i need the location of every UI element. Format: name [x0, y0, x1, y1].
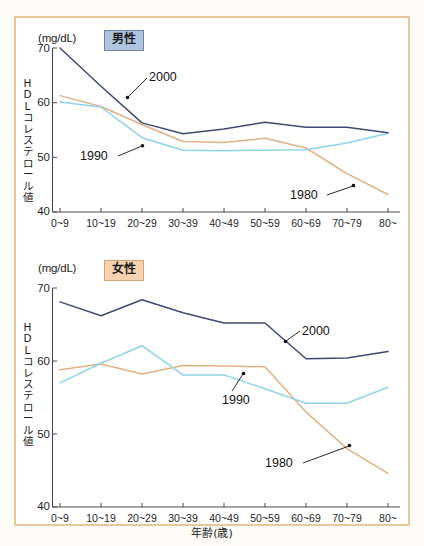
x-tick-male-4: 40~49	[201, 218, 247, 229]
series-label-male-2000: 2000	[149, 70, 177, 84]
series-group-male	[60, 48, 388, 195]
x-tick-male-3: 30~39	[160, 218, 206, 229]
series-label-male-1980: 1980	[290, 188, 318, 202]
annotation-leaders-male	[118, 78, 355, 195]
series-label-female-1980: 1980	[265, 456, 293, 470]
x-axis-title: 年齢(歳)	[0, 524, 424, 540]
series-line-1980	[60, 364, 388, 474]
plot-svg-female	[0, 262, 424, 530]
y-tick-male-40: 40	[28, 206, 50, 217]
x-tick-female-2: 20~29	[119, 513, 165, 524]
plot-svg-male	[0, 18, 424, 268]
x-tick-male-5: 50~59	[242, 218, 288, 229]
y-tick-female-70: 70	[28, 283, 50, 294]
series-label-female-1990: 1990	[222, 393, 250, 407]
y-tick-female-40: 40	[28, 501, 50, 512]
figure-page: (mg/dL) 男性 HDLコレステロール値	[0, 0, 424, 546]
x-tick-male-1: 10~19	[78, 218, 124, 229]
x-tick-female-7: 70~79	[324, 513, 370, 524]
x-tick-male-2: 20~29	[119, 218, 165, 229]
series-line-2000	[60, 300, 388, 359]
series-line-2000	[60, 48, 388, 134]
y-tick-male-60: 60	[28, 97, 50, 108]
x-tickmarks-male	[60, 208, 388, 212]
series-label-female-2000: 2000	[302, 324, 330, 338]
y-tick-female-60: 60	[28, 356, 50, 367]
x-tick-male-0: 0~9	[40, 218, 80, 229]
x-tick-female-0: 0~9	[40, 513, 80, 524]
x-tick-female-3: 30~39	[160, 513, 206, 524]
y-tick-male-70: 70	[28, 43, 50, 54]
x-tick-male-7: 70~79	[324, 218, 370, 229]
series-group-female	[60, 300, 388, 474]
x-tick-female-5: 50~59	[242, 513, 288, 524]
chart-panel-female: (mg/dL) 女性 HDLコレステロール値	[0, 262, 424, 530]
x-tick-male-8: 80~	[368, 218, 408, 229]
x-tickmarks-female	[60, 503, 388, 507]
x-tick-male-6: 60~69	[283, 218, 329, 229]
series-label-male-1990: 1990	[80, 149, 108, 163]
chart-panel-male: (mg/dL) 男性 HDLコレステロール値	[0, 18, 424, 268]
x-tick-female-8: 80~	[368, 513, 408, 524]
x-tick-female-1: 10~19	[78, 513, 124, 524]
x-tick-female-6: 60~69	[283, 513, 329, 524]
x-tick-female-4: 40~49	[201, 513, 247, 524]
y-tick-female-50: 50	[28, 429, 50, 440]
y-tick-male-50: 50	[28, 152, 50, 163]
